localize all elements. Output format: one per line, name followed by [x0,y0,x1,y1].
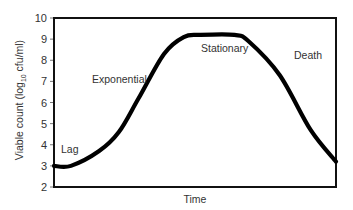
y-tick-label: 2 [41,181,47,193]
y-tick-label: 7 [41,75,47,87]
y-axis-ticks: 2345678910 [35,12,54,193]
y-tick-label: 3 [41,160,47,172]
y-tick-label: 10 [35,12,47,24]
phase-label-death: Death [294,49,322,61]
y-tick-label: 6 [41,97,47,109]
phase-label-exponential: Exponential [92,73,147,85]
phase-label-lag: Lag [61,143,79,155]
growth-curve-chart: 2345678910 Lag Exponential Stationary De… [0,0,353,210]
y-tick-label: 4 [41,139,47,151]
x-axis-title: Time [184,193,207,205]
y-axis-title: Viable count (log10 cfu/ml) [13,40,27,160]
y-tick-label: 5 [41,118,47,130]
y-tick-label: 9 [41,33,47,45]
y-tick-label: 8 [41,54,47,66]
phase-label-stationary: Stationary [201,42,249,54]
